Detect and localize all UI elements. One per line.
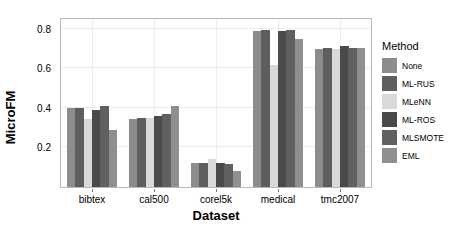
y-axis-title-text: MicroFM (4, 90, 19, 143)
legend-swatch-icon (382, 94, 397, 109)
x-axis-tick-mark (154, 189, 155, 192)
legend-item-label: ML-RUS (402, 79, 435, 89)
legend-swatch-icon (382, 130, 397, 145)
x-axis-tick-label: bibtex (79, 194, 106, 205)
plot-panel (60, 18, 372, 188)
y-axis-tick-labels: 0.20.40.60.8 (22, 18, 55, 188)
legend-swatch-icon (382, 76, 397, 91)
bar-series-container (61, 19, 371, 187)
legend-item-label: MLSMOTE (402, 133, 444, 143)
legend-item-label: MLeNN (402, 97, 431, 107)
x-axis-tick-labels: bibtexcal500corel5kmedicaltmc2007 (60, 189, 372, 209)
x-axis-tick-mark (216, 189, 217, 192)
x-axis-tick-mark (278, 189, 279, 192)
x-axis-tick-label: corel5k (200, 194, 232, 205)
bar (109, 130, 118, 187)
legend-item-label: EML (402, 151, 419, 161)
y-axis-tick-label: 0.4 (37, 102, 51, 113)
bar (357, 48, 366, 187)
bar (233, 171, 242, 187)
legend-items: NoneML-RUSMLeNNML-ROSMLSMOTEEML (382, 57, 454, 164)
legend-item[interactable]: MLSMOTE (382, 129, 454, 146)
bar (295, 39, 304, 187)
legend-item-label: None (402, 61, 422, 71)
legend-item[interactable]: ML-RUS (382, 75, 454, 92)
y-axis-tick-label: 0.8 (37, 23, 51, 34)
bar (171, 106, 180, 187)
x-axis-title: Dataset (60, 208, 372, 223)
legend-item-label: ML-ROS (402, 115, 435, 125)
x-axis-tick-mark (340, 189, 341, 192)
y-axis-tick-label: 0.6 (37, 63, 51, 74)
x-axis-tick-label: tmc2007 (321, 194, 359, 205)
legend-swatch-icon (382, 58, 397, 73)
legend-swatch-icon (382, 112, 397, 127)
legend-title: Method (382, 40, 454, 52)
y-axis-tick-label: 0.2 (37, 142, 51, 153)
legend-item[interactable]: None (382, 57, 454, 74)
legend-item[interactable]: EML (382, 147, 454, 164)
legend-item[interactable]: MLeNN (382, 93, 454, 110)
x-axis-tick-label: cal500 (139, 194, 168, 205)
x-axis-tick-mark (92, 189, 93, 192)
legend-swatch-icon (382, 148, 397, 163)
bar-chart-figure: MicroFM 0.20.40.60.8 bibtexcal500corel5k… (0, 0, 454, 250)
x-axis-tick-label: medical (261, 194, 295, 205)
y-axis-title: MicroFM (2, 62, 20, 172)
legend-item[interactable]: ML-ROS (382, 111, 454, 128)
legend: Method NoneML-RUSMLeNNML-ROSMLSMOTEEML (382, 40, 454, 165)
